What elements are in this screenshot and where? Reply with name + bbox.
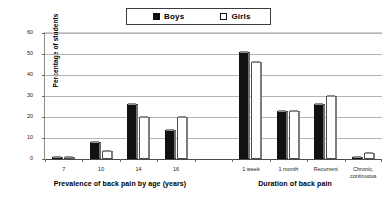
bar-group	[120, 33, 157, 159]
bar-girls	[177, 117, 188, 159]
legend-label-girls: Girls	[231, 13, 250, 21]
bar-top-face	[178, 116, 186, 118]
bar-boys	[352, 157, 363, 159]
bar-boys	[127, 104, 138, 159]
bar-top-face	[240, 51, 248, 53]
x-tick-mark	[45, 159, 46, 162]
bar-top-face	[278, 110, 286, 112]
bar-top-face	[53, 156, 61, 158]
legend-swatch-girls-icon	[220, 13, 227, 20]
bar-pair	[307, 33, 344, 159]
bar-top-face	[353, 156, 361, 158]
bar-top-face	[252, 61, 260, 63]
bar-girls	[289, 111, 300, 159]
y-tick-label: 50	[13, 51, 33, 57]
bar-pair	[120, 33, 157, 159]
bar-top-face	[315, 103, 323, 105]
x-tick-label: Chronic, continuous	[337, 166, 390, 180]
bar-girls	[326, 96, 337, 159]
bar-top-face	[65, 156, 73, 158]
y-tick-label: 60	[13, 30, 33, 36]
chart-legend: Boys Girls	[126, 8, 271, 25]
bar-boys	[314, 104, 325, 159]
bar-boys	[277, 111, 288, 159]
bar-pair	[157, 33, 194, 159]
bar-girls	[64, 157, 75, 159]
bar-pair	[270, 33, 307, 159]
legend-entry-girls: Girls	[220, 13, 250, 21]
section-title-duration: Duration of back pain	[205, 180, 385, 187]
x-tick-mark	[345, 159, 346, 162]
bar-girls	[102, 151, 113, 159]
legend-label-boys: Boys	[164, 13, 184, 21]
bar-girls	[364, 153, 375, 159]
bar-group	[232, 33, 269, 159]
x-axis-baseline	[45, 159, 382, 160]
x-tick-label: 16	[149, 166, 202, 173]
x-tick-mark	[120, 159, 121, 162]
y-tick-label: 10	[13, 135, 33, 141]
x-tick-mark	[157, 159, 158, 162]
bar-boys	[52, 157, 63, 159]
bar-top-face	[128, 103, 136, 105]
bar-boys	[165, 130, 176, 159]
bar-group	[45, 33, 82, 159]
bar-group	[345, 33, 382, 159]
x-tick-mark	[270, 159, 271, 162]
x-tick-mark	[381, 159, 382, 162]
bar-pair	[232, 33, 269, 159]
x-tick-mark	[195, 159, 196, 162]
bar-girls	[251, 62, 262, 159]
bar-chart: Boys Girls Percentage of students 010203…	[0, 0, 391, 198]
bar-top-face	[91, 141, 99, 143]
bar-boys	[239, 52, 250, 159]
bar-group	[307, 33, 344, 159]
x-tick-mark	[232, 159, 233, 162]
bar-girls	[139, 117, 150, 159]
bar-group	[270, 33, 307, 159]
legend-swatch-boys-icon	[153, 13, 160, 20]
x-tick-mark	[307, 159, 308, 162]
section-title-prevalence: Prevalence of back pain by age (years)	[30, 180, 210, 187]
bar-group	[82, 33, 119, 159]
legend-entry-boys: Boys	[153, 13, 184, 21]
bar-top-face	[140, 116, 148, 118]
bar-pair	[82, 33, 119, 159]
bar-top-face	[365, 152, 373, 154]
bar-top-face	[327, 95, 335, 97]
bar-pair	[45, 33, 82, 159]
plot-area: Percentage of students 0102030405060 710…	[44, 32, 382, 159]
x-tick-mark	[82, 159, 83, 162]
y-tick-label: 40	[13, 72, 33, 78]
bar-top-face	[103, 150, 111, 152]
bar-boys	[90, 142, 101, 159]
y-tick-label: 20	[13, 114, 33, 120]
bar-top-face	[290, 110, 298, 112]
y-tick-label: 30	[13, 93, 33, 99]
bar-pair	[345, 33, 382, 159]
bar-top-face	[166, 129, 174, 131]
bar-group	[157, 33, 194, 159]
y-tick-label: 0	[13, 156, 33, 162]
